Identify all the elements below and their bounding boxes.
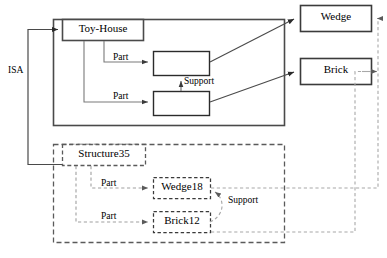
- part-edge-2-label: Part: [113, 92, 128, 102]
- support-edge-1-label: Support: [184, 77, 214, 87]
- part-edge-4-label: Part: [101, 212, 116, 222]
- wedge-label: Wedge: [300, 11, 372, 22]
- part-edge-1-label: Part: [113, 53, 128, 63]
- diagram-canvas: Toy-House Wedge Brick Structure35 Wedge1…: [0, 0, 387, 258]
- brick12-label: Brick12: [153, 215, 211, 226]
- slot1-to-wedge-edge: [210, 19, 294, 62]
- support-edge-2: [210, 192, 222, 222]
- toy-house-label: Toy-House: [62, 23, 144, 34]
- part-slot-2-node[interactable]: [154, 92, 210, 116]
- support-edge-2-label: Support: [228, 196, 258, 206]
- part-edge-3: [91, 166, 148, 188]
- slot2-to-brick-edge: [210, 72, 294, 102]
- brick-label: Brick: [300, 64, 372, 75]
- wedge18-label: Wedge18: [153, 181, 211, 192]
- isa-edge-label: ISA: [8, 66, 23, 76]
- structure35-label: Structure35: [62, 148, 146, 159]
- part-slot-1-node[interactable]: [154, 52, 210, 76]
- part-edge-3-label: Part: [101, 179, 116, 189]
- brick12-to-brick-edge: [211, 72, 377, 233]
- wedge18-to-wedge-edge: [211, 19, 378, 189]
